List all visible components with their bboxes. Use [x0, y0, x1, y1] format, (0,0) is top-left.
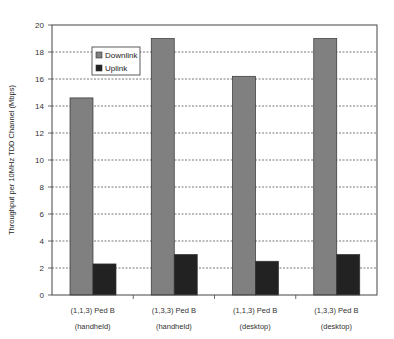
- x-category-label: (1,3,3) Ped B: [152, 306, 196, 315]
- x-category-label: (handheld): [156, 322, 192, 331]
- x-axis-categories: (1,1,3) Ped B(handheld)(1,3,3) Ped B(han…: [71, 295, 359, 331]
- x-category-label: (desktop): [321, 322, 353, 331]
- y-tick-label: 14: [35, 102, 44, 111]
- y-tick-label: 0: [40, 291, 45, 300]
- y-axis-label: Throughput per 10MHz TDD Channel (Mbps): [7, 85, 16, 235]
- y-tick-label: 6: [40, 210, 45, 219]
- bars: [70, 39, 360, 296]
- x-category-label: (1,1,3) Ped B: [71, 306, 115, 315]
- bar-downlink: [151, 39, 174, 296]
- y-tick-label: 20: [35, 21, 44, 30]
- bar-chart: 02468101214161820 (1,1,3) Ped B(handheld…: [0, 0, 394, 339]
- y-tick-label: 2: [40, 264, 45, 273]
- bar-uplink: [337, 255, 360, 296]
- bar-downlink: [314, 39, 337, 296]
- y-tick-label: 18: [35, 48, 44, 57]
- bar-uplink: [256, 261, 279, 295]
- legend-label: Downlink: [105, 51, 138, 60]
- x-category-label: (1,1,3) Ped B: [233, 306, 277, 315]
- y-tick-label: 4: [40, 237, 45, 246]
- y-axis-ticks: 02468101214161820: [35, 21, 52, 300]
- y-tick-label: 12: [35, 129, 44, 138]
- legend-swatch: [96, 52, 102, 58]
- y-tick-label: 16: [35, 75, 44, 84]
- y-tick-label: 10: [35, 156, 44, 165]
- x-category-label: (desktop): [239, 322, 271, 331]
- bar-downlink: [70, 98, 93, 295]
- bar-uplink: [93, 264, 116, 295]
- legend: DownlinkUplink: [92, 47, 140, 75]
- x-category-label: (handheld): [75, 322, 111, 331]
- legend-label: Uplink: [105, 64, 128, 73]
- y-tick-label: 8: [40, 183, 45, 192]
- bar-downlink: [233, 76, 256, 295]
- bar-uplink: [174, 255, 197, 296]
- x-category-label: (1,3,3) Ped B: [314, 306, 358, 315]
- legend-swatch: [96, 65, 102, 71]
